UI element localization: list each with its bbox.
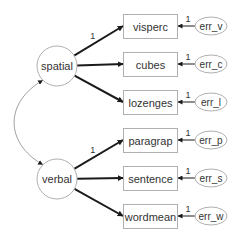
observed-label: sentence	[128, 173, 173, 185]
loading-arrow-spatial-cubes[interactable]	[77, 64, 123, 65]
loading-weight-label: 1	[90, 145, 95, 155]
latent-factor-spatial[interactable]: spatial	[37, 46, 77, 86]
error-label: err_w	[198, 211, 224, 222]
loading-arrow-verbal-wordmean[interactable]	[74, 189, 123, 216]
error-term-err_p[interactable]: err_p	[195, 131, 227, 149]
error-label: err_s	[200, 173, 223, 184]
observed-label: paragrap	[128, 135, 172, 147]
error-term-err_w[interactable]: err_w	[195, 207, 227, 225]
error-label: err_v	[200, 21, 223, 32]
observed-variable-cubes[interactable]: cubes	[124, 53, 178, 77]
error-weight-label: 1	[185, 166, 190, 176]
loading-arrow-verbal-paragrap[interactable]	[74, 140, 123, 169]
loading-arrow-verbal-sentence[interactable]	[77, 178, 123, 179]
error-weight-label: 1	[185, 90, 190, 100]
latent-label: verbal	[42, 173, 72, 185]
observed-label: visperc	[133, 21, 168, 33]
observed-label: lozenges	[128, 97, 173, 109]
error-term-err_s[interactable]: err_s	[195, 169, 227, 187]
error-weight-label: 1	[185, 52, 190, 62]
error-weight-label: 1	[185, 14, 190, 24]
observed-variable-lozenges[interactable]: lozenges	[124, 91, 178, 115]
node-layer: spatialverbalvisperccubeslozengesparagra…	[37, 15, 227, 229]
error-label: err_p	[199, 135, 223, 146]
latent-label: spatial	[41, 60, 73, 72]
observed-variable-paragrap[interactable]: paragrap	[124, 129, 178, 153]
error-weight-label: 1	[185, 128, 190, 138]
covariance-arrow-spatial-verbal[interactable]	[14, 80, 43, 164]
observed-variable-sentence[interactable]: sentence	[124, 167, 178, 191]
latent-factor-verbal[interactable]: verbal	[37, 159, 77, 199]
error-label: err_l	[201, 97, 221, 108]
loading-arrow-spatial-lozenges[interactable]	[75, 76, 123, 102]
observed-variable-visperc[interactable]: visperc	[124, 15, 178, 39]
loading-weight-label: 1	[90, 31, 95, 41]
error-weight-label: 1	[185, 204, 190, 214]
observed-variable-wordmean[interactable]: wordmean	[124, 205, 178, 229]
observed-label: cubes	[136, 59, 166, 71]
error-term-err_v[interactable]: err_v	[195, 17, 227, 35]
error-label: err_c	[200, 59, 223, 70]
error-term-err_c[interactable]: err_c	[195, 55, 227, 73]
sem-path-diagram: 11111111 spatialverbalvisperccubeslozeng…	[0, 0, 243, 240]
covariance-layer	[14, 80, 43, 164]
observed-label: wordmean	[124, 211, 176, 223]
loading-arrow-spatial-visperc[interactable]	[74, 26, 123, 56]
error-term-err_l[interactable]: err_l	[195, 93, 227, 111]
